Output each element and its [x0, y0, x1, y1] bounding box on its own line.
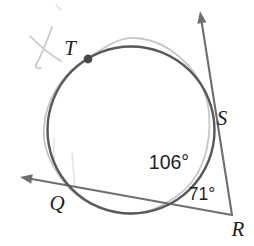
arc-angle-label: 106° [149, 151, 189, 173]
vertex-angle-label: 71° [189, 184, 215, 204]
point-dot-T [84, 55, 93, 64]
label-R: R [231, 217, 245, 241]
pencil-smudge-3 [56, 5, 61, 10]
arrowhead-Q-icon [20, 174, 33, 183]
pencil-circle-trace [44, 38, 210, 214]
x-mark-stroke-1 [30, 36, 61, 61]
geometry-figure: T S Q R 106° 71° [0, 0, 254, 246]
label-S: S [217, 106, 228, 130]
diagram-svg: T S Q R 106° 71° [0, 0, 254, 246]
arrowhead-S-icon [197, 11, 206, 24]
pencil-smudge-2 [72, 153, 75, 188]
label-T: T [64, 36, 77, 60]
label-Q: Q [49, 191, 64, 215]
x-mark-stroke-2 [36, 27, 52, 68]
